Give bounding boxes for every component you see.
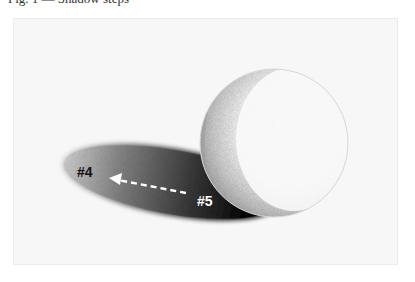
sphere-shadow-illustration [14, 19, 398, 265]
step-label-5: #5 [197, 193, 213, 209]
step-label-4: #4 [77, 164, 93, 180]
illustration-frame: #4 #5 [13, 18, 398, 265]
figure-caption: Fig. 1 — Shadow steps [8, 0, 129, 7]
